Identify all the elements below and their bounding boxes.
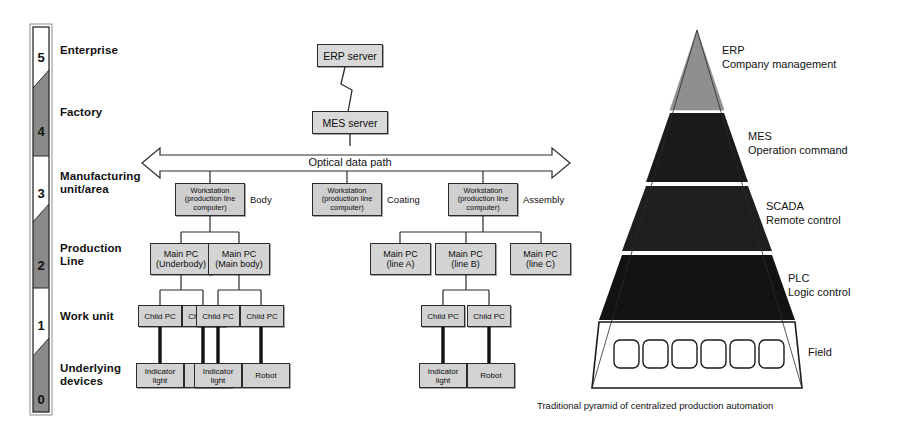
field-cell xyxy=(701,340,726,368)
field-cell xyxy=(614,340,639,368)
level-label-manufacturing-unit: Manufacturing unit/area xyxy=(60,170,141,196)
pyramid-tier-erp xyxy=(670,30,724,110)
field-cell xyxy=(672,340,697,368)
group-label-coating: Coating xyxy=(387,194,420,205)
svg-text:3: 3 xyxy=(37,186,44,201)
pyramid-tier-scada xyxy=(622,186,772,251)
level-label-work-unit: Work unit xyxy=(60,310,114,323)
node-workstation-body[interactable]: Workstation (production line computer) xyxy=(175,183,245,216)
pyramid-caption: Traditional pyramid of centralized produ… xyxy=(537,400,773,411)
node-robot-2[interactable]: Robot xyxy=(242,363,290,388)
bus-workstation-links xyxy=(210,171,483,183)
node-workstation-coating[interactable]: Workstation (production line computer) xyxy=(312,183,382,216)
node-workstation-assembly[interactable]: Workstation (production line computer) xyxy=(448,183,518,216)
pyramid-label-plc: PLC Logic control xyxy=(788,272,850,299)
pyramid-label-erp: ERP Company management xyxy=(722,44,836,71)
assembly-device-links xyxy=(443,327,489,363)
svg-text:2: 2 xyxy=(37,258,44,273)
node-child-pc-1[interactable]: Child PC xyxy=(138,305,182,327)
field-cell xyxy=(643,340,668,368)
group-label-assembly: Assembly xyxy=(523,194,564,205)
node-child-pc-6[interactable]: Child PC xyxy=(467,305,511,327)
optical-data-path-label: Optical data path xyxy=(240,156,460,168)
pyramid-label-mes: MES Operation command xyxy=(748,130,848,157)
node-main-pc-line-a[interactable]: Main PC (line A) xyxy=(370,243,431,275)
svg-text:0: 0 xyxy=(37,392,44,407)
erp-mes-link xyxy=(341,67,352,112)
svg-text:5: 5 xyxy=(37,50,44,65)
node-indicator-light-2[interactable]: Indicator light xyxy=(194,363,242,388)
pyramid-label-scada: SCADA Remote control xyxy=(766,200,841,227)
node-main-pc-line-c[interactable]: Main PC (line C) xyxy=(510,243,571,275)
level-label-underlying-devices: Underlying devices xyxy=(60,362,121,388)
svg-text:1: 1 xyxy=(37,318,44,333)
node-child-pc-5[interactable]: Child PC xyxy=(421,305,465,327)
node-mes-server[interactable]: MES server xyxy=(312,111,388,134)
field-cell xyxy=(759,340,784,368)
node-child-pc-4[interactable]: Child PC xyxy=(240,305,284,327)
node-robot-3[interactable]: Robot xyxy=(467,363,515,388)
diagram-canvas: 5 4 3 2 1 0 xyxy=(0,0,906,433)
node-child-pc-3[interactable]: Child PC xyxy=(196,305,240,327)
maturity-bar: 5 4 3 2 1 0 xyxy=(30,24,52,415)
level-label-factory: Factory xyxy=(60,106,102,119)
pyramid-label-field: Field xyxy=(808,346,832,360)
node-erp-server[interactable]: ERP server xyxy=(317,44,383,67)
node-indicator-light-3[interactable]: Indicator light xyxy=(419,363,467,388)
node-main-pc-underbody[interactable]: Main PC (Underbody) xyxy=(150,243,212,275)
node-main-pc-main-body[interactable]: Main PC (Main body) xyxy=(208,243,270,275)
body-device-links xyxy=(160,327,261,363)
group-label-body: Body xyxy=(250,194,272,205)
level-label-enterprise: Enterprise xyxy=(60,44,118,57)
node-indicator-light-1[interactable]: Indicator light xyxy=(136,363,184,388)
pyramid-tier-mes xyxy=(646,113,748,182)
level-label-production-line: Production Line xyxy=(60,242,122,268)
field-cell xyxy=(730,340,755,368)
svg-text:4: 4 xyxy=(37,124,45,139)
node-main-pc-line-b[interactable]: Main PC (line B) xyxy=(435,243,496,275)
